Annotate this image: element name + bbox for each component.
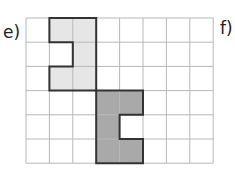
dark-shape-cell (120, 91, 143, 115)
light-shape-cell (49, 18, 72, 42)
light-shape-cell (73, 18, 96, 42)
grid-figure (0, 0, 235, 175)
dark-shape-cell (96, 115, 119, 139)
dark-shape-cell (120, 139, 143, 163)
dark-shape-cell (96, 139, 119, 163)
light-shape-cell (73, 66, 96, 90)
dark-shape-cell (96, 91, 119, 115)
light-shape-cell (49, 66, 72, 90)
light-shape-cell (73, 42, 96, 66)
